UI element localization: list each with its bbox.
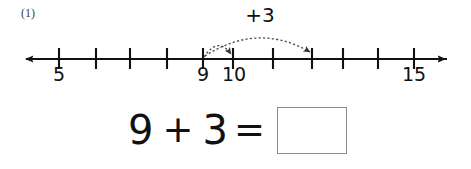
- number-line-diagram: [0, 0, 471, 100]
- jump-arc-short: [204, 46, 231, 57]
- tick-label-15: 15: [396, 64, 432, 84]
- jump-arc-long: [205, 38, 310, 56]
- equation-plus-operator: +: [155, 107, 200, 153]
- tick-label-5: 5: [44, 64, 74, 84]
- equation-first-operand: 9: [126, 107, 155, 153]
- worksheet-problem: (1) +3: [0, 0, 471, 169]
- equation-row: 9 + 3 =: [126, 102, 347, 158]
- equation-second-operand: 3: [200, 107, 229, 153]
- equation-equals-sign: =: [230, 107, 271, 153]
- tick-label-10: 10: [216, 64, 252, 84]
- answer-input-box[interactable]: [277, 107, 347, 154]
- tick-label-9: 9: [189, 64, 217, 84]
